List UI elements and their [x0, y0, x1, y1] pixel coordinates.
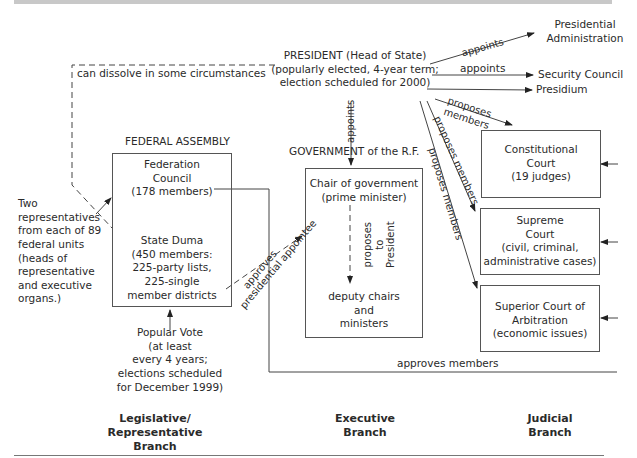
edge-label-appoints-government: appoints	[344, 100, 357, 143]
president-label: PRESIDENT (Head of State) (popularly ele…	[268, 49, 442, 90]
edge-label-appoints-security: appoints	[460, 62, 505, 76]
deputies-label: deputy chairs and ministers	[305, 290, 423, 331]
presidential-administration-label: Presidential Administration	[535, 18, 635, 45]
presidium-label: Presidium	[536, 83, 588, 97]
supreme-court-label: Supreme Court (civil, criminal, administ…	[480, 214, 600, 269]
security-council-label: Security Council	[538, 68, 623, 82]
federal-assembly-title: FEDERAL ASSEMBLY	[125, 135, 230, 149]
legislative-branch-label: Legislative/ Representative Branch	[95, 412, 215, 453]
edge-label-approves-members: approves members	[397, 357, 499, 371]
state-duma-label: State Duma (450 members: 225-party lists…	[112, 234, 232, 302]
edge-label-can-dissolve: can dissolve in some circumstances	[77, 67, 266, 81]
two-representatives-label: Two representatives from each of 89 fede…	[18, 197, 101, 306]
constitutional-court-label: Constitutional Court (19 judges)	[481, 143, 601, 184]
government-title: GOVERNMENT of the R.F.	[289, 145, 419, 159]
edge-label-proposes-to-president: proposes to President	[362, 221, 397, 268]
executive-branch-label: Executive Branch	[305, 412, 425, 440]
judicial-branch-label: Judicial Branch	[490, 412, 610, 440]
arbitration-court-label: Superior Court of Arbitration (economic …	[480, 300, 600, 341]
federation-council-label: Federation Council (178 members)	[112, 158, 232, 199]
chair-label: Chair of government (prime minister)	[305, 177, 423, 204]
bottom-rule	[14, 455, 604, 456]
popular-vote-label: Popular Vote (at least every 4 years; el…	[110, 326, 230, 394]
